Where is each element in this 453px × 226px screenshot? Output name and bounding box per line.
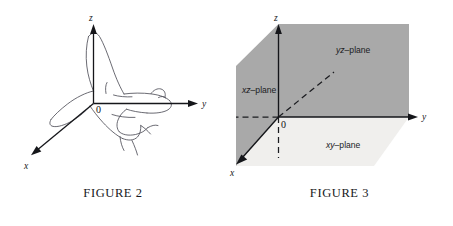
y-axis-label-figure-2: y [201, 99, 207, 109]
figure-pair-page: z y x 0 FIGURE 2 [0, 0, 453, 226]
figure-3-caption: FIGURE 3 [310, 187, 369, 200]
origin-label-figure-2: 0 [96, 104, 101, 115]
y-axis-arrowhead [188, 100, 198, 107]
z-axis-label-figure-2: z [88, 13, 93, 23]
figure-2-caption: FIGURE 2 [83, 187, 142, 200]
yz-plane-label-rest: –plane [345, 45, 371, 55]
x-axis-line [36, 104, 94, 152]
figure-3: z y x 0 yz–plane xz–plane xy–plane FIGUR… [226, 0, 453, 226]
yz-plane-label: yz–plane [335, 45, 371, 55]
xy-plane-label-rest: –plane [335, 140, 361, 150]
figure-2-illustration: z y x 0 [0, 0, 226, 186]
xz-plane-label-rest: –plane [251, 85, 277, 95]
axis-arrowheads-figure-2 [31, 24, 198, 155]
origin-label-figure-3: 0 [281, 119, 286, 130]
xz-plane-label: xz–plane [241, 85, 277, 95]
z-axis-arrowhead [90, 24, 97, 34]
y-axis-label-figure-3: y [421, 112, 427, 122]
figure-2: z y x 0 FIGURE 2 [0, 0, 226, 226]
z-axis-label-figure-3: z [273, 13, 278, 23]
xy-plane-label: xy–plane [325, 140, 361, 150]
figure-3-illustration: z y x 0 yz–plane xz–plane xy–plane [226, 0, 453, 186]
y-axis-arrowhead [408, 114, 418, 121]
yz-plane-surface [279, 24, 410, 117]
x-axis-label-figure-2: x [23, 161, 29, 171]
x-axis-label-figure-3: x [229, 168, 235, 178]
hand-outline-figure-2 [50, 33, 172, 155]
